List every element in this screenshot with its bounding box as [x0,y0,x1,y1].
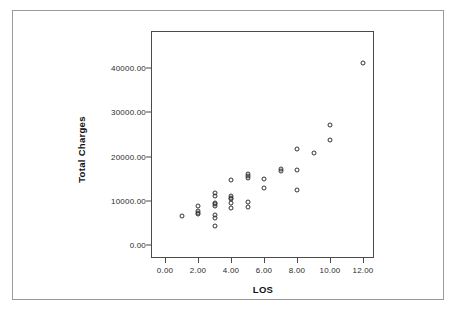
data-point [212,193,217,198]
data-point [328,123,333,128]
x-axis-tick-mark [264,258,265,263]
data-point [196,211,201,216]
data-point [179,213,184,218]
data-point [328,138,333,143]
x-axis-title: LOS [253,284,273,295]
y-axis-tick-label: 10000.00 [111,196,146,205]
x-axis-tick-label: 12.00 [352,266,373,275]
x-axis-tick-label: 4.00 [223,266,239,275]
data-point [212,215,217,220]
data-point [262,177,267,182]
plot-area [151,31,374,258]
data-point [229,177,234,182]
y-axis-tick-mark [146,112,151,113]
data-point [262,186,267,191]
data-point [295,146,300,151]
y-axis-tick-label: 30000.00 [111,108,146,117]
y-axis-tick-mark [146,68,151,69]
x-axis-tick-mark [198,258,199,263]
data-point [196,204,201,209]
y-axis-tick-mark [146,200,151,201]
x-axis-tick-mark [330,258,331,263]
data-point [245,175,250,180]
y-axis-tick-mark [146,156,151,157]
x-axis-tick-label: 8.00 [289,266,305,275]
x-axis-tick-label: 6.00 [256,266,272,275]
x-axis-tick-mark [165,258,166,263]
data-point [212,223,217,228]
y-axis-tick-label: 40000.00 [111,64,146,73]
x-axis-tick-mark [363,258,364,263]
x-axis-tick-mark [231,258,232,263]
y-axis-title-wrapper: Total Charges [52,0,112,315]
data-point [278,168,283,173]
y-axis-tick-label: 20000.00 [111,152,146,161]
data-point [295,188,300,193]
data-point [311,151,316,156]
y-axis-title: Total Charges [76,116,87,183]
data-point [361,60,366,65]
data-point [229,206,234,211]
y-axis-tick-mark [146,245,151,246]
scatter-plot-figure: 0.0010000.0020000.0030000.0040000.00 0.0… [0,0,459,315]
x-axis-tick-mark [297,258,298,263]
data-point [212,203,217,208]
data-point [245,204,250,209]
x-axis-tick-label: 0.00 [157,266,173,275]
data-point [229,200,234,205]
x-axis-tick-label: 2.00 [190,266,206,275]
y-axis-tick-label: 0.00 [130,241,146,250]
data-point [295,168,300,173]
x-axis-tick-label: 10.00 [319,266,340,275]
